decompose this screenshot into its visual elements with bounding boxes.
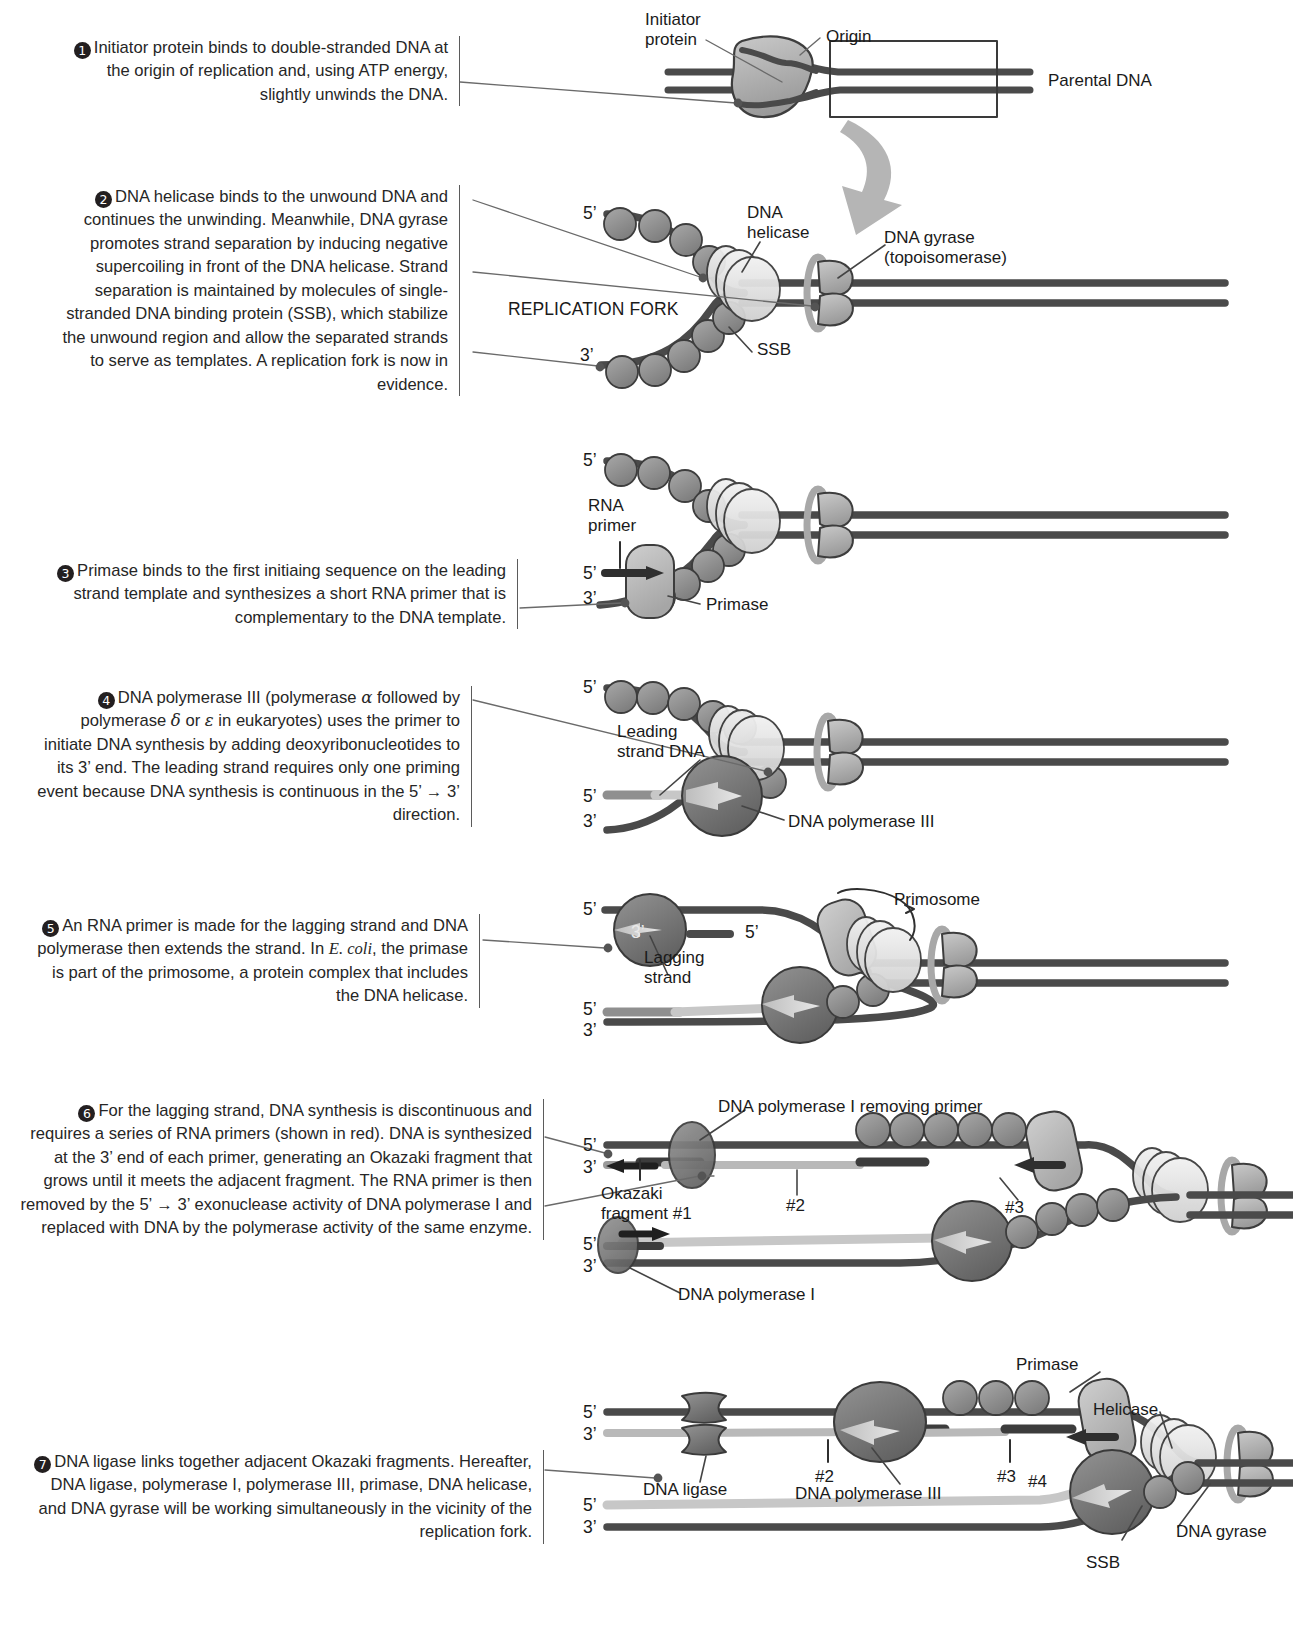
panel5-3prime-inner: 3’ xyxy=(631,922,645,943)
label-dna-gyrase-panel7: DNA gyrase xyxy=(1176,1522,1267,1542)
step-7-body: DNA ligase links together adjacent Okaza… xyxy=(39,1452,532,1541)
label-dna-polymerase-iii-panel7: DNA polymerase III xyxy=(795,1484,941,1504)
label-initiator-protein: Initiator protein xyxy=(645,10,701,49)
greek-alpha: α xyxy=(361,688,372,707)
panel7-5prime-upper: 5’ xyxy=(583,1402,597,1423)
label-ssb-panel2: SSB xyxy=(757,340,791,360)
panel3-5prime-primer: 5’ xyxy=(583,563,597,584)
panel4-5prime-upper: 5’ xyxy=(583,677,597,698)
label-origin: Origin xyxy=(826,27,871,47)
step-6-body: For the lagging strand, DNA synthesis is… xyxy=(20,1101,532,1237)
step-7-number: 7 xyxy=(34,1456,51,1473)
label-leading-strand-dna: Leading strand DNA xyxy=(617,722,705,761)
label-dna-ligase: DNA ligase xyxy=(643,1480,727,1500)
step-1-number: 1 xyxy=(74,42,91,59)
step-3-body: Primase binds to the first initiaing seq… xyxy=(73,561,506,627)
panel3-3prime-primer: 3’ xyxy=(583,588,597,609)
step-2-number: 2 xyxy=(95,191,112,208)
panel-3-artwork xyxy=(520,454,1225,618)
panel-1-artwork xyxy=(460,36,1030,235)
label-lagging-strand: Lagging strand xyxy=(644,948,705,987)
step-5-text: 5An RNA primer is made for the lagging s… xyxy=(28,914,480,1008)
panel3-5prime-upper: 5’ xyxy=(583,450,597,471)
step-3-text: 3Primase binds to the first initiaing se… xyxy=(32,559,518,629)
label-okazaki-fragment-1: Okazaki fragment #1 xyxy=(601,1184,692,1223)
label-primase-panel7: Primase xyxy=(1016,1355,1078,1375)
dna-replication-figure: 1Initiator protein binds to double-stran… xyxy=(0,0,1293,1644)
label-pol-i-removing-primer: DNA polymerase I removing primer xyxy=(718,1097,983,1117)
label-primase-panel3: Primase xyxy=(706,595,768,615)
step-1-body: Initiator protein binds to double-strand… xyxy=(94,38,448,104)
ecoli-italic: E. coli xyxy=(329,939,372,958)
step-4-body-1: DNA polymerase III (polymerase xyxy=(118,688,361,707)
step-4-text: 4DNA polymerase III (polymerase α follow… xyxy=(32,686,472,827)
step-7-text: 7DNA ligase links together adjacent Okaz… xyxy=(32,1450,544,1544)
panel6-3prime-upper: 3’ xyxy=(583,1157,597,1178)
panel5-5prime-primer: 5’ xyxy=(745,922,759,943)
label-dna-polymerase-iii-panel4: DNA polymerase III xyxy=(788,812,934,832)
step-6-number: 6 xyxy=(78,1105,95,1122)
step-5-number: 5 xyxy=(42,920,59,937)
label-dna-polymerase-i: DNA polymerase I xyxy=(678,1285,815,1305)
step-4-number: 4 xyxy=(98,692,115,709)
label-replication-fork: REPLICATION FORK xyxy=(508,299,678,320)
panel7-5prime-lower: 5’ xyxy=(583,1495,597,1516)
step-2-text: 2DNA helicase binds to the unwound DNA a… xyxy=(54,185,460,396)
label-fragment-3-panel7: #3 xyxy=(997,1467,1016,1487)
panel6-5prime-upper: 5’ xyxy=(583,1135,597,1156)
panel2-5prime-upper: 5’ xyxy=(583,203,597,224)
step-4-body-3: or xyxy=(181,711,205,730)
label-dna-gyrase: DNA gyrase (topoisomerase) xyxy=(884,228,1007,267)
step-3-number: 3 xyxy=(57,565,74,582)
label-fragment-2-panel6: #2 xyxy=(786,1196,805,1216)
panel5-3prime-lower: 3’ xyxy=(583,1020,597,1041)
label-dna-helicase: DNA helicase xyxy=(747,203,809,242)
label-fragment-3-panel6: #3 xyxy=(1005,1198,1024,1218)
panel6-5prime-lower: 5’ xyxy=(583,1234,597,1255)
step-1-text: 1Initiator protein binds to double-stran… xyxy=(54,36,460,106)
label-ssb-panel7: SSB xyxy=(1086,1553,1120,1573)
greek-delta: δ xyxy=(171,711,181,730)
panel7-3prime-upper: 3’ xyxy=(583,1424,597,1445)
panel5-5prime-lower: 5’ xyxy=(583,999,597,1020)
step-6-text: 6For the lagging strand, DNA synthesis i… xyxy=(16,1099,544,1240)
label-rna-primer: RNA primer xyxy=(588,496,636,535)
label-primosome: Primosome xyxy=(894,890,980,910)
greek-epsilon: ε xyxy=(205,711,214,730)
label-helicase-panel7: Helicase xyxy=(1093,1400,1158,1420)
panel6-3prime-lower: 3’ xyxy=(583,1256,597,1277)
step-2-body: DNA helicase binds to the unwound DNA an… xyxy=(62,187,448,394)
label-parental-dna: Parental DNA xyxy=(1048,71,1152,91)
panel7-3prime-lower: 3’ xyxy=(583,1517,597,1538)
panel4-3prime-new: 3’ xyxy=(583,811,597,832)
label-fragment-4-panel7: #4 xyxy=(1028,1472,1047,1492)
panel5-5prime-upper: 5’ xyxy=(583,899,597,920)
panel2-3prime-lower: 3’ xyxy=(580,345,594,366)
panel-7-artwork xyxy=(545,1372,1293,1540)
panel4-5prime-new: 5’ xyxy=(583,786,597,807)
